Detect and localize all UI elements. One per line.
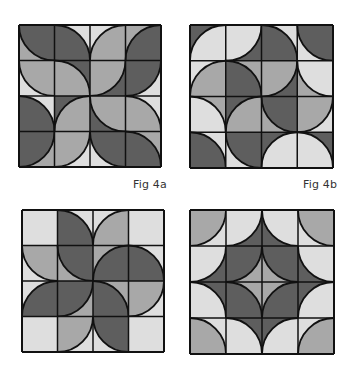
quarter-circle-tile [58,281,94,317]
quarter-circle-tile [19,132,55,168]
quarter-circle-tile [93,246,129,282]
quarter-circle-tile [19,25,55,61]
quarter-circle-tile [190,132,226,168]
tile-grid [189,24,334,169]
figure-4c [21,209,165,353]
quarter-circle-tile [226,282,262,318]
tile-grid [18,24,162,168]
quarter-circle-tile [298,318,334,354]
quarter-circle-tile [126,96,162,132]
quarter-circle-tile [19,61,55,97]
quarter-circle-tile [262,132,298,168]
quarter-circle-tile [226,318,262,354]
tile-grid [21,209,165,353]
quarter-circle-tile [93,281,129,317]
quarter-circle-tile [22,317,58,353]
quarter-circle-tile [226,132,262,168]
quarter-circle-tile [129,210,165,246]
quarter-circle-tile [226,25,262,61]
quarter-circle-tile [129,317,165,353]
quarter-circle-tile [190,97,226,133]
quarter-circle-tile [226,97,262,133]
quarter-circle-tile [226,210,262,246]
quarter-circle-tile [93,317,129,353]
quarter-circle-tile [55,132,91,168]
quarter-circle-tile [129,281,165,317]
quarter-circle-tile [226,61,262,97]
figure-4b-label: Fig 4b [303,178,337,191]
quarter-circle-tile [298,282,334,318]
tile-grid [189,209,335,355]
quarter-circle-tile [262,25,298,61]
quarter-circle-tile [262,318,298,354]
quarter-circle-tile [262,210,298,246]
quarter-circle-tile [126,25,162,61]
quarter-circle-tile [190,25,226,61]
quarter-circle-tile [19,96,55,132]
quarter-circle-tile [58,317,94,353]
quarter-circle-tile [90,61,126,97]
quarter-circle-tile [262,282,298,318]
quarter-circle-tile [297,132,333,168]
figure-4a-label: Fig 4a [133,178,167,191]
quarter-circle-tile [90,132,126,168]
quarter-circle-tile [297,61,333,97]
figure-4b [189,24,334,169]
quarter-circle-tile [126,61,162,97]
quarter-circle-tile [22,281,58,317]
quarter-circle-tile [22,210,58,246]
quarter-circle-tile [297,97,333,133]
quarter-circle-tile [298,210,334,246]
quarter-circle-tile [22,246,58,282]
quarter-circle-tile [90,96,126,132]
quarter-circle-tile [93,210,129,246]
quarter-circle-tile [262,97,298,133]
quarter-circle-tile [55,96,91,132]
quarter-circle-tile [226,246,262,282]
quarter-circle-tile [262,246,298,282]
quarter-circle-tile [90,25,126,61]
quarter-circle-tile [190,246,226,282]
quarter-circle-tile [190,318,226,354]
quarter-circle-tile [55,61,91,97]
quarter-circle-tile [297,25,333,61]
quarter-circle-tile [129,246,165,282]
quarter-circle-tile [298,246,334,282]
quarter-circle-tile [58,246,94,282]
quarter-circle-tile [126,132,162,168]
quarter-circle-tile [190,61,226,97]
quarter-circle-tile [55,25,91,61]
figure-4a [18,24,162,168]
quarter-circle-tile [58,210,94,246]
figure-4d [189,209,335,355]
quarter-circle-tile [190,210,226,246]
quarter-circle-tile [262,61,298,97]
quarter-circle-tile [190,282,226,318]
